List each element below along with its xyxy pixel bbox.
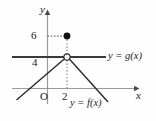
x-axis — [12, 86, 140, 92]
curve-label-g: y = g(x) — [108, 51, 142, 62]
x-tick-label-2: 2 — [62, 91, 68, 102]
x-axis-label: x — [136, 90, 141, 101]
y-tick-label-4: 4 — [32, 57, 38, 68]
curve-f-right-branch — [68, 58, 108, 103]
y-tick-label-6: 6 — [31, 30, 37, 41]
curve-label-f: y = f(x) — [70, 98, 102, 109]
filled-dot-marker-at-six — [64, 33, 71, 40]
y-axis-arrowhead — [45, 10, 51, 16]
origin-label: O — [40, 91, 48, 102]
math-figure-canvas: y x 6 4 O 2 y = g(x) y = f(x) — [0, 0, 156, 121]
open-circle-marker-at-vertex — [64, 54, 70, 60]
y-axis-label: y — [40, 4, 45, 15]
